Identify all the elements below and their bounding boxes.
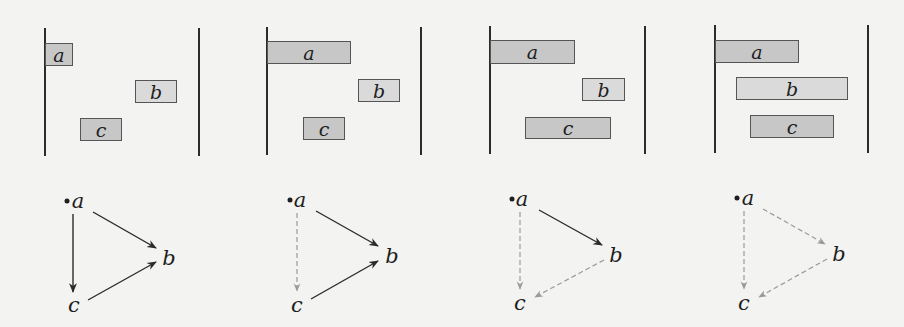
edge-a-to-b-solid: [539, 210, 602, 245]
edge-c-to-b-solid: [88, 262, 156, 300]
edge-a-to-b-solid: [316, 211, 378, 246]
edge-a-to-b-dashed: [763, 209, 825, 244]
edge-b-to-c-dashed: [535, 260, 604, 297]
graph-edges-layer: [0, 0, 904, 327]
edge-b-to-c-dashed: [759, 259, 827, 297]
edge-c-to-b-solid: [311, 261, 378, 299]
edge-a-to-b-solid: [93, 212, 156, 248]
